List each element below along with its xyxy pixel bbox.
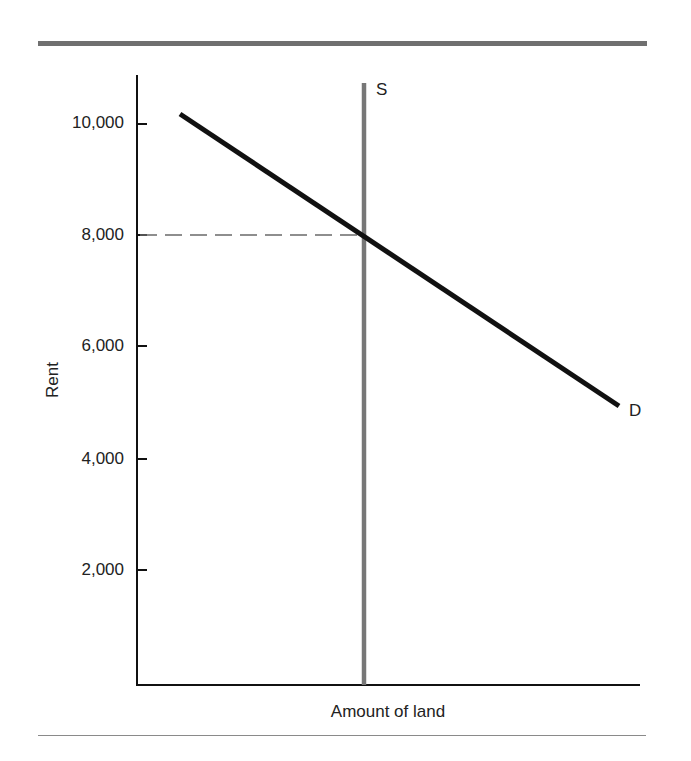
supply-label: S: [376, 80, 387, 100]
bottom-rule: [38, 735, 646, 736]
ytick-label-2000: 2,000: [34, 560, 124, 580]
demand-curve: [180, 114, 619, 406]
y-axis-label: Rent: [43, 357, 63, 403]
demand-label: D: [629, 401, 641, 421]
ytick-label-10000: 10,000: [34, 113, 124, 133]
ytick-label-6000: 6,000: [34, 336, 124, 356]
x-axis-label: Amount of land: [288, 702, 488, 722]
ytick-label-4000: 4,000: [34, 449, 124, 469]
ytick-label-8000: 8,000: [34, 225, 124, 245]
